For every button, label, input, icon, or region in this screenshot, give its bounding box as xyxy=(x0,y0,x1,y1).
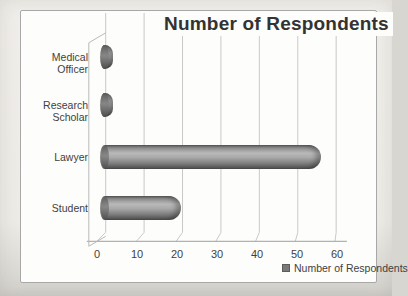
bar-left-cap xyxy=(100,145,109,169)
bar-medical-officer xyxy=(101,45,113,69)
x-tick-label: 40 xyxy=(245,248,269,260)
bar-left-cap xyxy=(100,45,109,69)
x-tick-label: 30 xyxy=(205,248,229,260)
category-label: Lawyer xyxy=(24,151,88,163)
bar-student xyxy=(101,196,181,220)
bar-research-scholar xyxy=(101,93,113,117)
bar-lawyer xyxy=(101,145,321,169)
x-tick-label: 0 xyxy=(85,248,109,260)
x-tick-label: 60 xyxy=(325,248,349,260)
bar-left-cap xyxy=(100,196,109,220)
legend-swatch-icon xyxy=(282,264,290,272)
x-tick-label: 10 xyxy=(125,248,149,260)
chart-frame: Number of Respondents Number of Responde… xyxy=(20,10,377,283)
x-tick-label: 20 xyxy=(165,248,189,260)
x-tick-label: 50 xyxy=(285,248,309,260)
legend: Number of Respondents xyxy=(282,262,408,274)
legend-label: Number of Respondents xyxy=(294,262,408,274)
bar-left-cap xyxy=(100,93,109,117)
category-label: Medical Officer xyxy=(24,51,88,75)
category-label: Student xyxy=(24,202,88,214)
chart-title: Number of Respondents xyxy=(160,12,393,36)
category-label: Research Scholar xyxy=(24,99,88,123)
